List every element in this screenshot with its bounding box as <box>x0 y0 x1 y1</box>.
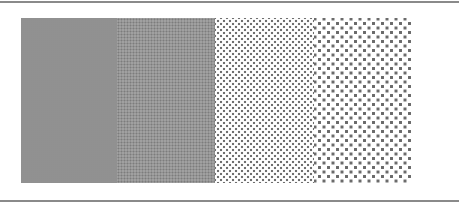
halftone-panel-coarse <box>314 18 412 183</box>
halftone-panel-fine <box>117 18 215 183</box>
halftone-panel-group <box>21 18 412 183</box>
halftone-panel-very-fine <box>21 18 117 183</box>
bottom-rule <box>0 200 459 202</box>
top-rule <box>0 1 459 3</box>
halftone-panel-medium <box>215 18 314 183</box>
